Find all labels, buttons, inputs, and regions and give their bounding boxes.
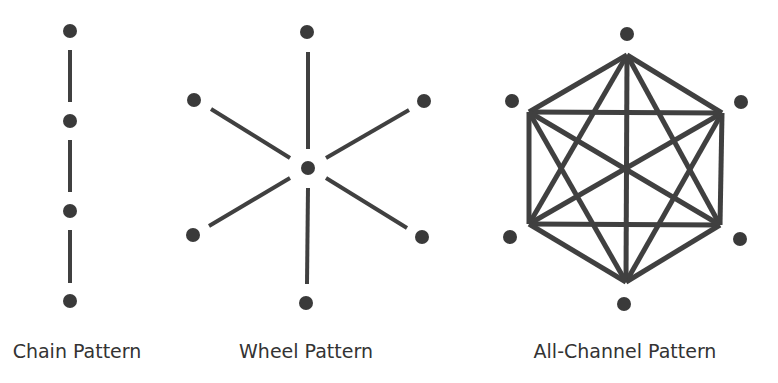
connection-line	[529, 112, 722, 113]
chain-pattern-label: Chain Pattern	[13, 340, 142, 362]
member-node	[63, 114, 77, 128]
member-node	[503, 230, 517, 244]
chain-pattern-diagram	[63, 24, 77, 308]
member-node	[417, 94, 431, 108]
all-channel-pattern-label: All-Channel Pattern	[534, 340, 717, 362]
member-node	[300, 25, 314, 39]
member-node	[299, 296, 313, 310]
all-channel-pattern-diagram	[503, 27, 748, 311]
member-node	[186, 228, 200, 242]
communication-patterns-diagram	[0, 0, 778, 383]
member-node	[187, 93, 201, 107]
member-node	[415, 230, 429, 244]
member-node	[63, 294, 77, 308]
connection-line	[307, 188, 308, 284]
connection-line	[326, 110, 409, 158]
wheel-pattern-diagram	[186, 25, 431, 310]
wheel-pattern-label: Wheel Pattern	[239, 340, 373, 362]
member-node	[63, 204, 77, 218]
member-node	[617, 297, 631, 311]
member-node	[505, 94, 519, 108]
center-node	[301, 161, 315, 175]
connection-line	[720, 113, 722, 225]
connection-line	[211, 109, 290, 158]
member-node	[63, 24, 77, 38]
connection-line	[529, 224, 720, 225]
member-node	[734, 95, 748, 109]
connection-line	[326, 178, 407, 228]
member-node	[620, 27, 634, 41]
member-node	[733, 232, 747, 246]
connection-line	[209, 178, 290, 226]
